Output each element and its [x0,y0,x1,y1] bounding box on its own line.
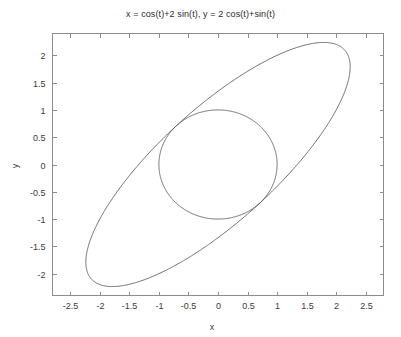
x-tick-label: 1.5 [301,301,314,311]
x-tick-label: 0.5 [242,301,255,311]
x-tick-label: -2 [96,301,104,311]
y-tick-label: -2 [37,270,45,280]
figure-canvas: x = cos(t)+2 sin(t), y = 2 cos(t)+sin(t)… [0,0,401,337]
x-tick-label: -1 [155,301,163,311]
y-tick-label: -0.5 [30,188,46,198]
curve-ellipse [86,42,350,286]
y-tick-label: 0 [40,161,45,171]
x-tick-label: -1.5 [122,301,138,311]
y-tick-label: 2 [40,51,45,61]
x-tick-label: 2.5 [360,301,373,311]
y-tick-label: 1 [40,106,45,116]
curve-unit-circle [159,110,277,219]
plot-area: -2.5-2-1.5-1-0.500.511.522.5-2-1.5-1-0.5… [0,0,401,337]
y-tick-label: 0.5 [33,133,46,143]
tick-labels-group: -2.5-2-1.5-1-0.500.511.522.5-2-1.5-1-0.5… [30,51,373,311]
data-curves-group [86,42,350,286]
x-tick-label: 0 [216,301,221,311]
y-tick-label: 1.5 [33,79,46,89]
x-axis-title: x [210,322,215,332]
axes-group [53,34,384,296]
y-tick-label: -1.5 [30,242,46,252]
x-tick-label: 2 [334,301,339,311]
ticks-group [53,34,384,296]
x-tick-label: -0.5 [181,301,197,311]
x-tick-label: -2.5 [63,301,79,311]
y-tick-label: -1 [37,215,45,225]
y-axis-title: y [10,163,20,168]
plot-box-border [53,34,384,296]
x-tick-label: 1 [275,301,280,311]
